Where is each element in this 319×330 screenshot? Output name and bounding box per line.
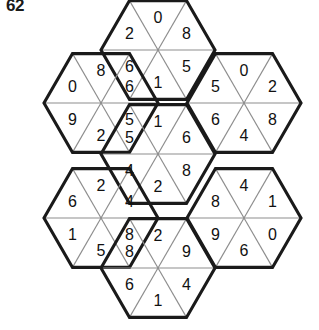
cell-digit-upper-right-upper-left: 5: [211, 78, 220, 95]
cell-digit-upper-left-lower-left: 9: [68, 111, 77, 128]
cell-digit-bottom-bottom: 1: [154, 292, 163, 309]
cell-digit-lower-right-bottom: 6: [240, 242, 249, 259]
cell-digit-upper-left-lower-right: 5: [125, 111, 134, 128]
hex-spoke: [216, 54, 245, 103]
hex-spoke: [73, 54, 102, 103]
cell-digit-upper-left-upper-left: 0: [68, 78, 77, 95]
hexagon-number-puzzle: 62 0851628652900284651682452485164106982…: [0, 0, 319, 330]
cell-digit-lower-left-lower-left: 1: [68, 226, 77, 243]
cell-digit-lower-left-top: 2: [97, 177, 106, 194]
hex-spoke: [73, 103, 102, 152]
hex-spoke: [244, 103, 273, 152]
cell-digit-top-upper-right: 8: [182, 25, 191, 42]
cell-digit-upper-right-bottom: 4: [240, 127, 249, 144]
cell-digit-upper-right-lower-left: 6: [211, 111, 220, 128]
cell-digit-upper-right-lower-right: 8: [268, 111, 277, 128]
cell-digit-lower-left-bottom: 5: [97, 242, 106, 259]
cell-digit-lower-right-upper-right: 1: [268, 193, 277, 210]
cell-digit-upper-right-top: 0: [240, 62, 249, 79]
hex-spoke: [244, 218, 273, 267]
puzzle-diagram: 0851628652900284651682452485164106982941…: [0, 0, 319, 330]
hex-spoke: [244, 169, 273, 218]
cell-digit-bottom-lower-left: 6: [125, 276, 134, 293]
cell-digit-center-upper-left: 5: [125, 129, 134, 146]
cell-digit-lower-right-top: 4: [240, 177, 249, 194]
hex-spoke: [101, 54, 130, 103]
cell-digit-center-lower-right: 8: [182, 162, 191, 179]
cell-digit-center-top: 1: [154, 113, 163, 130]
hex-spoke: [158, 50, 187, 99]
cell-digit-bottom-upper-left: 8: [125, 243, 134, 260]
hex-spoke: [130, 268, 159, 317]
hex-spoke: [130, 1, 159, 50]
puzzle-number-label: 62: [6, 0, 24, 16]
hex-spoke: [158, 154, 187, 203]
cell-digit-upper-left-top: 8: [97, 62, 106, 79]
cell-digit-lower-right-upper-left: 8: [211, 193, 220, 210]
cell-digit-top-bottom: 1: [154, 74, 163, 91]
cell-digit-top-top: 0: [154, 9, 163, 26]
hex-spoke: [244, 54, 273, 103]
cell-digit-lower-left-lower-right: 8: [125, 226, 134, 243]
cell-digit-lower-right-lower-right: 0: [268, 226, 277, 243]
hex-spoke: [216, 218, 245, 267]
hex-spoke: [216, 169, 245, 218]
hex-spoke: [158, 219, 187, 268]
hex-spoke: [158, 1, 187, 50]
cell-digit-center-upper-right: 6: [182, 129, 191, 146]
cell-digit-upper-left-bottom: 2: [97, 127, 106, 144]
cell-digit-bottom-top: 2: [154, 227, 163, 244]
hex-spoke: [216, 103, 245, 152]
cell-digit-lower-right-lower-left: 9: [211, 226, 220, 243]
cell-digit-center-bottom: 2: [154, 178, 163, 195]
cell-digit-bottom-upper-right: 9: [182, 243, 191, 260]
cell-digit-lower-left-upper-left: 6: [68, 193, 77, 210]
cell-digit-top-upper-left: 2: [125, 25, 134, 42]
hex-spoke: [73, 218, 102, 267]
hex-spoke: [158, 105, 187, 154]
hex-spoke: [73, 169, 102, 218]
cell-digit-bottom-lower-right: 4: [182, 276, 191, 293]
cell-digit-upper-right-upper-right: 2: [268, 78, 277, 95]
cell-digit-top-lower-right: 5: [182, 58, 191, 75]
hex-spoke: [158, 268, 187, 317]
hex-spoke: [130, 50, 159, 99]
